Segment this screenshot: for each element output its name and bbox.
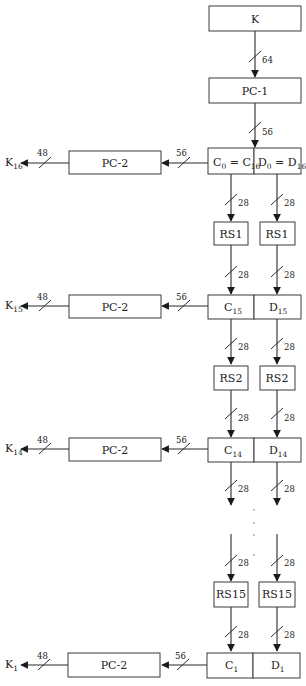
svg-text:56: 56 [176, 148, 187, 158]
svg-text:56: 56 [175, 651, 186, 661]
svg-text:PC-2: PC-2 [101, 659, 128, 672]
pc1-to-c0d0-arrow: 56 [249, 103, 273, 147]
svg-text:56: 56 [262, 127, 273, 137]
svg-text:28: 28 [238, 342, 249, 352]
svg-text:RS2: RS2 [266, 372, 289, 385]
svg-text:28: 28 [238, 270, 249, 280]
svg-text:28: 28 [284, 198, 295, 208]
svg-text:K: K [251, 13, 260, 26]
pc2-to-k16-arrow: 48 K16 [5, 148, 69, 171]
gap-arrows: 28 28 [225, 462, 295, 505]
svg-text:48: 48 [37, 148, 48, 158]
pc2-box-k1: PC-2 [68, 653, 160, 677]
svg-text:48: 48 [37, 292, 48, 302]
svg-text:28: 28 [238, 413, 249, 423]
svg-text:56: 56 [176, 292, 187, 302]
svg-text:28: 28 [284, 342, 295, 352]
svg-text:RS15: RS15 [262, 588, 292, 601]
svg-text:28: 28 [284, 630, 295, 640]
subkey-k16-label: K16 [5, 156, 23, 171]
c15-d15-register: C15 D15 [208, 295, 301, 319]
svg-text:28: 28 [284, 558, 295, 568]
svg-text:28: 28 [238, 198, 249, 208]
row0-to-pc2-arrow: 56 [162, 148, 208, 168]
svg-text:28: 28 [238, 558, 249, 568]
svg-text:PC-2: PC-2 [102, 301, 129, 314]
c1-d1-register: C1 D1 [207, 653, 300, 678]
svg-text:RS15: RS15 [216, 588, 246, 601]
svg-text:28: 28 [284, 270, 295, 280]
pc2-to-k1-arrow: 48 K1 [5, 651, 68, 673]
svg-text:28: 28 [238, 484, 249, 494]
pc2-to-k14-arrow: 48 K14 [5, 435, 69, 457]
stage-rs15: 28 28 RS15 RS15 28 28 [214, 534, 295, 651]
row3-to-pc2-arrow: 56 [162, 651, 207, 670]
c14-d14-register: C14 D14 [208, 438, 301, 462]
subkey-k14-label: K14 [5, 442, 23, 457]
pc2-box-k14: PC-2 [69, 438, 161, 461]
svg-text:RS2: RS2 [220, 372, 243, 385]
pc2-box-k15: PC-2 [69, 295, 161, 318]
svg-text:64: 64 [262, 55, 273, 65]
svg-text:48: 48 [37, 651, 48, 661]
svg-text:PC-1: PC-1 [242, 85, 269, 98]
svg-text:PC-2: PC-2 [102, 444, 129, 457]
svg-text:RS1: RS1 [220, 228, 243, 241]
svg-text:28: 28 [284, 484, 295, 494]
key-to-pc1-arrow: 64 [249, 31, 273, 77]
svg-text:48: 48 [37, 435, 48, 445]
svg-text:28: 28 [284, 413, 295, 423]
pc2-to-k15-arrow: 48 K15 [5, 292, 69, 314]
svg-text:56: 56 [176, 435, 187, 445]
des-key-schedule-diagram: K 64 PC-1 56 C0 = C16 D0 = D16 56 PC-2 4… [0, 0, 306, 686]
key-box: K [209, 6, 301, 31]
pc2-box-k16: PC-2 [69, 151, 161, 174]
c0-d0-register: C0 = C16 D0 = D16 [208, 148, 306, 174]
row1-to-pc2-arrow: 56 [162, 292, 208, 311]
svg-text:28: 28 [238, 630, 249, 640]
stage-rs1: 28 28 RS1 RS1 28 28 [214, 174, 295, 294]
pc1-box: PC-1 [209, 78, 301, 103]
stage-rs2: 28 28 RS2 RS2 28 28 [214, 319, 295, 437]
subkey-k1-label: K1 [5, 658, 18, 673]
svg-text:PC-2: PC-2 [102, 157, 129, 170]
svg-text:RS1: RS1 [266, 228, 289, 241]
ellipsis-dots [253, 509, 255, 556]
row2-to-pc2-arrow: 56 [162, 435, 208, 454]
subkey-k15-label: K15 [5, 299, 23, 314]
